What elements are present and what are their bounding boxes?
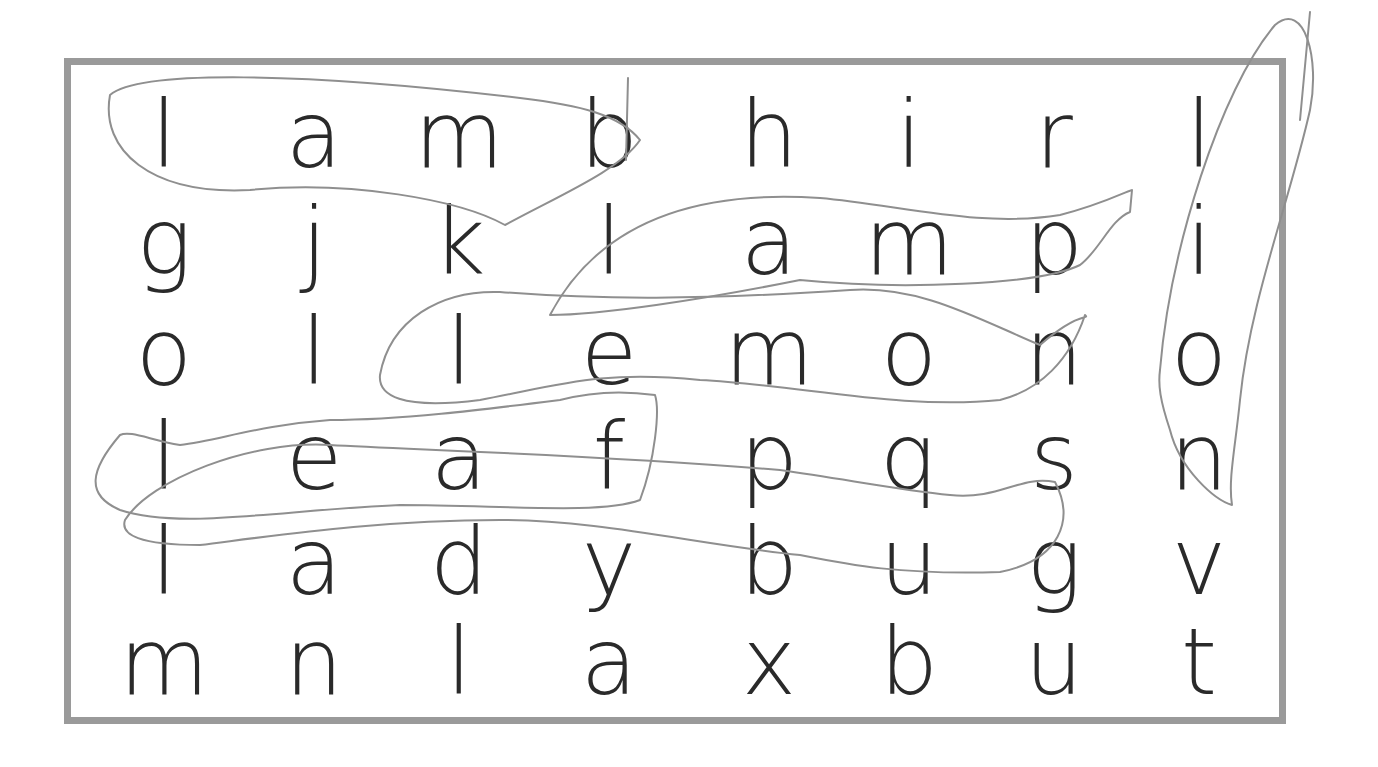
- grid-letter: h: [714, 86, 824, 186]
- grid-letter: v: [1144, 513, 1254, 613]
- grid-letter: t: [1144, 613, 1254, 713]
- grid-letter: j: [259, 193, 369, 293]
- grid-letter: n: [1144, 408, 1254, 508]
- grid-letter: a: [404, 408, 514, 508]
- grid-letter: o: [854, 303, 964, 403]
- grid-letter: b: [714, 513, 824, 613]
- grid-letter: f: [554, 408, 664, 508]
- grid-letter: y: [554, 513, 664, 613]
- grid-letter: x: [714, 613, 824, 713]
- grid-letter: u: [854, 513, 964, 613]
- grid-letter: m: [404, 86, 514, 186]
- grid-letter: l: [109, 408, 219, 508]
- grid-letter: l: [404, 613, 514, 713]
- grid-letter: d: [404, 513, 514, 613]
- grid-letter: o: [1144, 303, 1254, 403]
- grid-letter: m: [714, 303, 824, 403]
- grid-letter: i: [854, 86, 964, 186]
- grid-letter: e: [554, 303, 664, 403]
- grid-letter: p: [714, 408, 824, 508]
- grid-letter: o: [109, 303, 219, 403]
- grid-letter: a: [259, 513, 369, 613]
- grid-letter: n: [999, 303, 1109, 403]
- grid-letter: l: [554, 193, 664, 293]
- grid-letter: l: [259, 303, 369, 403]
- grid-letter: m: [854, 193, 964, 293]
- grid-letter: p: [999, 193, 1109, 293]
- grid-letter: l: [109, 513, 219, 613]
- grid-letter: a: [554, 613, 664, 713]
- grid-letter: n: [259, 613, 369, 713]
- grid-letter: k: [404, 193, 514, 293]
- grid-letter: b: [854, 613, 964, 713]
- grid-letter: l: [404, 303, 514, 403]
- grid-letter: a: [714, 193, 824, 293]
- grid-letter: s: [999, 408, 1109, 508]
- grid-letter: q: [854, 408, 964, 508]
- grid-letter: u: [999, 613, 1109, 713]
- grid-letter: b: [554, 86, 664, 186]
- grid-letter: l: [1144, 86, 1254, 186]
- letter-grid: lambhirlgjklampiollemonoleafpqsnladybugv…: [64, 58, 1286, 724]
- grid-letter: i: [1144, 193, 1254, 293]
- grid-letter: r: [999, 86, 1109, 186]
- grid-letter: g: [999, 513, 1109, 613]
- grid-letter: e: [259, 408, 369, 508]
- grid-letter: m: [109, 613, 219, 713]
- grid-letter: l: [109, 86, 219, 186]
- grid-letter: a: [259, 86, 369, 186]
- grid-letter: g: [109, 193, 219, 293]
